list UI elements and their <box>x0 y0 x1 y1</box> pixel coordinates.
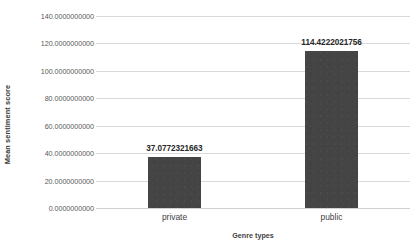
y-axis-tick-label: 120.0000000000 <box>14 39 94 48</box>
x-axis-category-label: public <box>321 212 343 222</box>
x-axis-title: Genre types <box>96 231 410 240</box>
y-axis-tick-labels: 0.000000000020.000000000040.000000000060… <box>14 0 94 249</box>
y-axis-tick-label: 40.0000000000 <box>14 149 94 158</box>
bars-layer: 37.0772321663114.4222021756 <box>96 16 410 208</box>
bar[interactable] <box>305 51 358 208</box>
bar-chart: Mean sentiment score 0.000000000020.0000… <box>0 0 419 249</box>
bar-group: 114.4222021756 <box>305 16 358 208</box>
y-axis-tick-label: 80.0000000000 <box>14 94 94 103</box>
bar-value-label: 114.4222021756 <box>301 38 361 47</box>
y-axis-tick-label: 60.0000000000 <box>14 121 94 130</box>
y-axis-tick-label: 140.0000000000 <box>14 12 94 21</box>
x-axis-category-label: private <box>162 212 187 222</box>
bar[interactable] <box>148 157 201 208</box>
gridline <box>96 208 410 209</box>
bar-group: 37.0772321663 <box>148 16 201 208</box>
y-axis-tick-label: 20.0000000000 <box>14 176 94 185</box>
y-axis-tick-label: 100.0000000000 <box>14 66 94 75</box>
y-axis-tick-label: 0.0000000000 <box>14 204 94 213</box>
bar-value-label: 37.0772321663 <box>146 144 202 153</box>
y-axis-title: Mean sentiment score <box>0 0 14 249</box>
x-axis-category-labels: privatepublic <box>96 212 410 228</box>
